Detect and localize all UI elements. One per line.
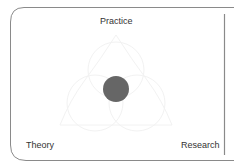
label-theory: Theory: [26, 140, 54, 150]
label-research: Research: [181, 140, 220, 150]
label-practice: Practice: [100, 16, 133, 26]
center-dot: [103, 76, 129, 102]
